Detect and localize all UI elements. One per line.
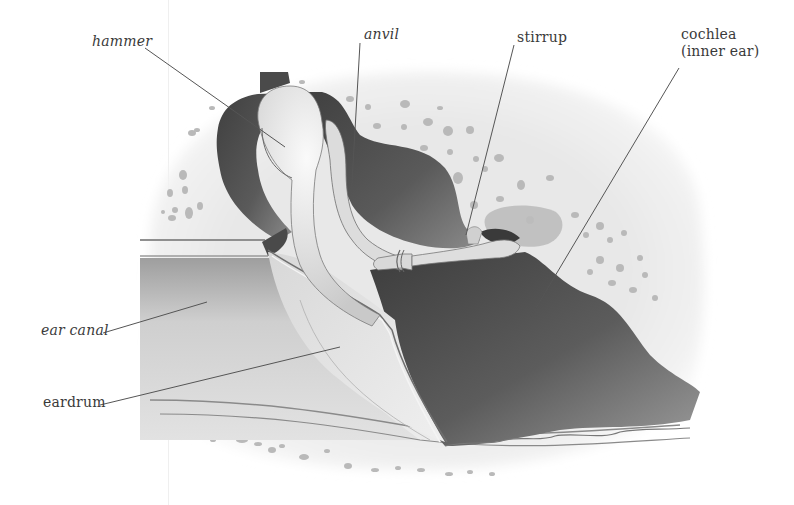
label-cochlea-line2: (inner ear) [681, 43, 759, 60]
label-cochlea-line1: cochlea [681, 26, 759, 43]
label-cochlea: cochlea (inner ear) [681, 26, 759, 60]
label-ear-canal: ear canal [41, 322, 109, 339]
label-anvil: anvil [364, 26, 399, 43]
label-eardrum: eardrum [43, 394, 106, 411]
ear-illustration [0, 0, 794, 505]
ear-diagram: hammer anvil stirrup cochlea (inner ear)… [0, 0, 794, 505]
label-hammer: hammer [92, 33, 152, 50]
label-stirrup: stirrup [517, 29, 567, 46]
